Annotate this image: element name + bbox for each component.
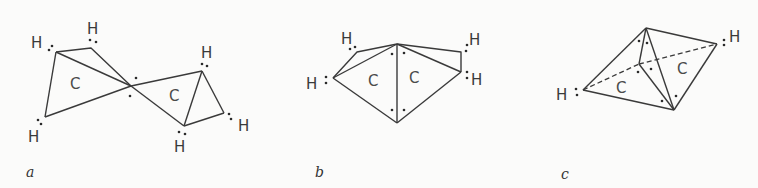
bond-edge (45, 52, 56, 117)
panel-a-ethane-tetrahedra: C C H H H H H H a (26, 20, 249, 180)
hydrogen-label: H (471, 71, 482, 89)
bond-edge (45, 86, 131, 117)
bond-edge (333, 78, 397, 123)
bond-edge (202, 71, 224, 113)
panel-label-a: a (26, 164, 34, 180)
bond-edge (583, 28, 646, 90)
bond-edge (184, 113, 224, 126)
panel-label-c: c (561, 166, 569, 182)
hydrogen-label: H (174, 138, 185, 156)
hydrogen-label: H (729, 28, 740, 46)
bond-edge (56, 52, 131, 86)
hydrogen-label: H (469, 31, 480, 49)
hydrogen-label: H (87, 20, 98, 38)
bond-edge (397, 72, 461, 123)
panel-label-b: b (315, 164, 324, 180)
hydrogen-label: H (201, 44, 212, 62)
panel-b-ethylene-tetrahedra: C C H H H H b (306, 30, 482, 180)
carbon-label: C (368, 72, 378, 90)
hidden-edge (583, 64, 639, 90)
bond-edge (184, 71, 202, 126)
molecular-diagram-figure: C C H H H H H H a C C (0, 0, 758, 188)
hydrogen-label: H (341, 30, 352, 48)
carbon-label: C (616, 79, 626, 97)
carbon-label: C (409, 69, 419, 87)
hydrogen-label: H (306, 75, 317, 93)
hydrogen-label: H (31, 34, 42, 52)
carbon-label: C (70, 75, 80, 93)
panel-c-acetylene-tetrahedra: C C H H c (556, 28, 740, 182)
hydrogen-label: H (28, 128, 39, 146)
hydrogen-label: H (238, 117, 249, 135)
bond-edge (646, 28, 717, 44)
carbon-label: C (677, 60, 687, 78)
hydrogen-label: H (556, 86, 567, 104)
carbon-label: C (169, 87, 179, 105)
bond-edge (333, 44, 397, 78)
bond-edge (131, 71, 202, 86)
